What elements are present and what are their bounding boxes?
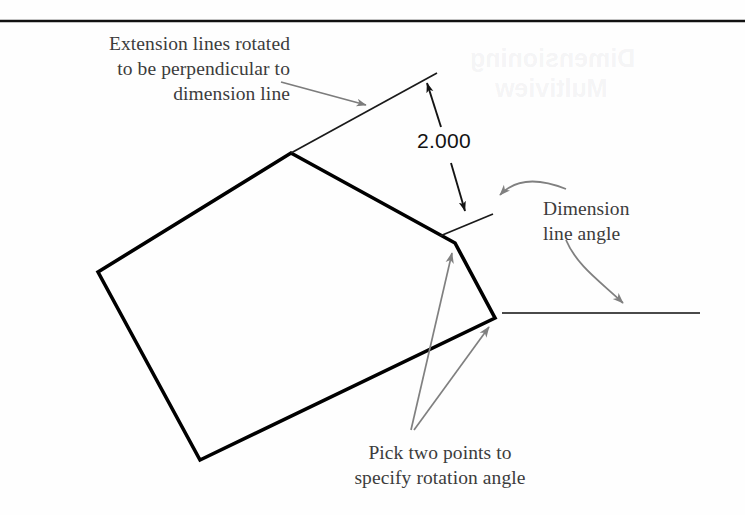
dimension-line-lower-segment [451,163,465,211]
leader-pick-point-lower [414,327,489,430]
leader-dimension-angle-to-horizontal [566,240,623,303]
leader-extension-note [281,82,366,105]
annotation-pick-two-points: Pick two points to specify rotation angl… [305,440,575,490]
figure-page: Dimensioning Multiview Extension lines r… [0,0,745,515]
leader-dimension-angle-to-dimline [500,182,566,195]
object-polygon [98,153,495,460]
annotation-extension-lines-note: Extension lines rotated to be perpendicu… [28,31,290,106]
extension-line-lower [440,214,493,236]
extension-line-upper [291,73,437,153]
annotation-dimension-line-angle: Dimension line angle [543,196,693,246]
dimension-line-upper-segment [427,83,441,127]
dimension-value-text: 2.000 [417,129,471,153]
